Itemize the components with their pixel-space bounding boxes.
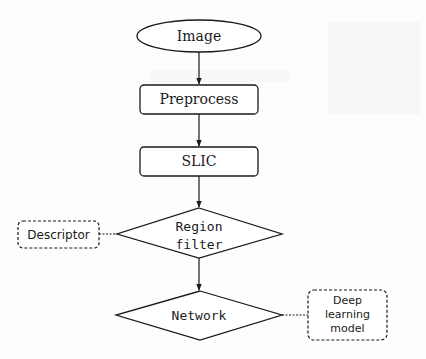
region-filter-label-line1: Region	[176, 219, 223, 234]
node-deep-learning-model[interactable]: Deep learning model	[308, 290, 387, 340]
diagram-canvas: Image Preprocess SLIC Region filter Netw…	[0, 0, 426, 359]
slic-label: SLIC	[181, 153, 216, 169]
deep-learning-label-line2: learning	[325, 308, 370, 321]
node-region-filter[interactable]: Region filter	[117, 208, 282, 258]
node-descriptor[interactable]: Descriptor	[18, 221, 99, 248]
node-slic[interactable]: SLIC	[140, 147, 258, 176]
descriptor-label: Descriptor	[27, 228, 89, 242]
deep-learning-label-line1: Deep	[333, 294, 362, 307]
flowchart-svg: Image Preprocess SLIC Region filter Netw…	[0, 0, 426, 359]
preprocess-label: Preprocess	[160, 91, 239, 107]
deep-learning-label-line3: model	[330, 322, 364, 335]
network-label: Network	[172, 308, 227, 323]
node-network[interactable]: Network	[116, 291, 282, 340]
image-label: Image	[177, 28, 221, 44]
region-filter-label-line2: filter	[176, 237, 223, 252]
node-preprocess[interactable]: Preprocess	[140, 85, 258, 114]
node-image[interactable]: Image	[137, 20, 261, 52]
